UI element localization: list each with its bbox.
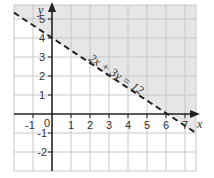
x-tick-label: -1 [25, 119, 35, 131]
y-tick-label: 4 [39, 32, 45, 44]
x-axis-label: x [196, 117, 203, 131]
inequality-graph: -1 1 2 3 4 5 6 7 0 5 4 3 2 1 -1 -2 y x 2… [0, 0, 214, 178]
y-tick-label: 2 [39, 70, 45, 82]
y-axis-label: y [37, 3, 44, 17]
x-tick-label: 7 [182, 119, 188, 131]
y-tick-labels: 5 4 3 2 1 -1 -2 [37, 13, 47, 158]
x-tick-label: 6 [163, 119, 169, 131]
y-tick-label: -1 [37, 127, 47, 139]
y-tick-label: 3 [39, 51, 45, 63]
x-tick-label: 1 [68, 119, 74, 131]
x-tick-label: 5 [144, 119, 150, 131]
y-tick-label: 1 [39, 89, 45, 101]
x-tick-label: 3 [106, 119, 112, 131]
x-tick-label: 2 [87, 119, 93, 131]
y-tick-label: -2 [37, 146, 47, 158]
x-tick-label: 4 [125, 119, 131, 131]
